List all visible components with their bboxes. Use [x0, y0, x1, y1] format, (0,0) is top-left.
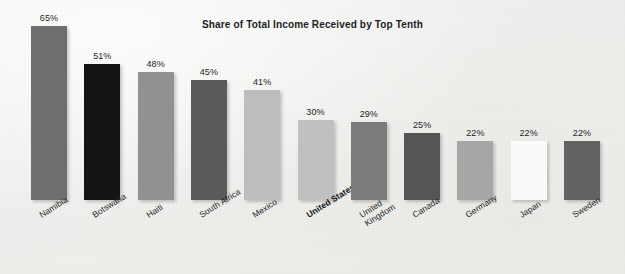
bar-rect[interactable] [138, 72, 174, 200]
bar-rect[interactable] [511, 141, 547, 200]
bar-chart: Share of Total Income Received by Top Te… [0, 0, 625, 274]
bar-group[interactable]: 65%Namibia [31, 0, 67, 274]
bar-rect[interactable] [564, 141, 600, 200]
bar-group[interactable]: 30%United States [298, 0, 334, 274]
bar-category-label: Japan [518, 200, 543, 220]
bar-group[interactable]: 29%UnitedKingdom [351, 0, 387, 274]
bar-rect[interactable] [404, 133, 440, 200]
bar-group[interactable]: 22%Germany [457, 0, 493, 274]
bar-group[interactable]: 25%Canada [404, 0, 440, 274]
bar-value-label: 29% [342, 109, 396, 119]
bar-rect[interactable] [298, 120, 334, 200]
bar-value-label: 25% [395, 120, 449, 130]
bar-value-label: 51% [75, 51, 129, 61]
bar-rect[interactable] [244, 90, 280, 200]
bar-group[interactable]: 22%Japan [511, 0, 547, 274]
bar-group[interactable]: 48%Haiti [138, 0, 174, 274]
bar-group[interactable]: 45%South Africa [191, 0, 227, 274]
bar-rect[interactable] [191, 80, 227, 200]
bar-value-label: 22% [448, 128, 502, 138]
bar-value-label: 22% [502, 128, 556, 138]
bar-rect[interactable] [31, 26, 67, 200]
bar-rect[interactable] [84, 64, 120, 200]
bar-rect[interactable] [457, 141, 493, 200]
bar-category-label: Mexico [251, 198, 279, 220]
bar-value-label: 65% [22, 13, 76, 23]
bar-value-label: 30% [289, 107, 343, 117]
bar-value-label: 41% [235, 77, 289, 87]
bar-value-label: 48% [129, 59, 183, 69]
bar-value-label: 45% [182, 67, 236, 77]
bar-group[interactable]: 51%Botswana [84, 0, 120, 274]
bar-rect[interactable] [351, 122, 387, 200]
plot-area: 65%Namibia51%Botswana48%Haiti45%South Af… [0, 0, 625, 274]
bar-group[interactable]: 41%Mexico [244, 0, 280, 274]
bar-group[interactable]: 22%Sweden [564, 0, 600, 274]
bar-category-label: Haiti [145, 203, 165, 220]
bar-value-label: 22% [555, 128, 609, 138]
